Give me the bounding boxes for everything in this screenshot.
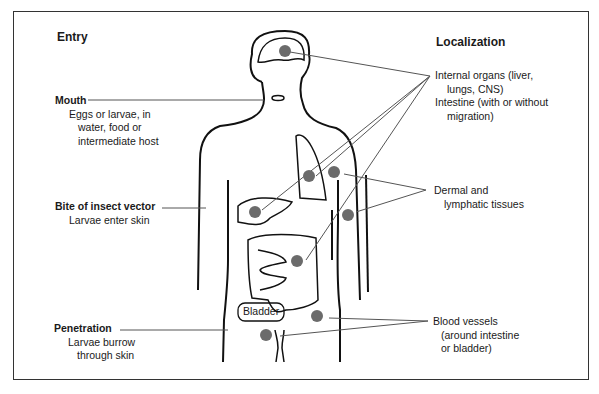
site-arm bbox=[342, 209, 354, 221]
site-chest bbox=[328, 166, 340, 178]
entry-penetration: Penetration Larvae burrow through skin bbox=[54, 322, 135, 363]
entry-mouth-title: Mouth bbox=[55, 94, 159, 108]
entry-penetration-title: Penetration bbox=[54, 322, 135, 336]
site-bladder bbox=[260, 329, 272, 341]
localization-heading: Localization bbox=[436, 35, 505, 49]
body-outline bbox=[198, 31, 368, 362]
entry-insect-bite: Bite of insect vector Larvae enter skin bbox=[55, 200, 155, 227]
entry-heading: Entry bbox=[57, 30, 88, 44]
site-lung bbox=[303, 170, 315, 182]
site-brain bbox=[279, 45, 291, 57]
bladder-label: Bladder bbox=[243, 305, 279, 317]
site-liver bbox=[249, 206, 261, 218]
localization-blood-vessels: Blood vessels (around intestine or bladd… bbox=[433, 315, 519, 356]
site-blood-vessel bbox=[311, 310, 323, 322]
site-intestine bbox=[291, 255, 303, 267]
localization-internal-organs: Internal organs (liver, lungs, CNS) Inte… bbox=[435, 69, 548, 123]
entry-insect-bite-title: Bite of insect vector bbox=[55, 200, 155, 214]
localization-dermal: Dermal and lymphatic tissues bbox=[434, 184, 524, 211]
entry-mouth: Mouth Eggs or larvae, in water, food or … bbox=[55, 94, 159, 148]
